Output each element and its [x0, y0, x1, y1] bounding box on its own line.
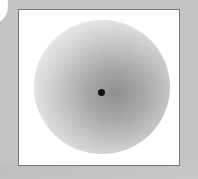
center-point-marker[interactable]	[98, 89, 105, 96]
radial-gradient-blob	[34, 20, 170, 154]
canvas-frame	[18, 9, 180, 166]
corner-shape	[0, 0, 8, 22]
